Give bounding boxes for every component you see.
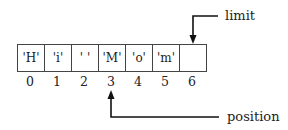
position-arrow-icon (108, 90, 220, 117)
limit-arrow-icon (190, 16, 219, 44)
limit-label: limit (225, 8, 255, 23)
position-label: position (227, 109, 280, 124)
